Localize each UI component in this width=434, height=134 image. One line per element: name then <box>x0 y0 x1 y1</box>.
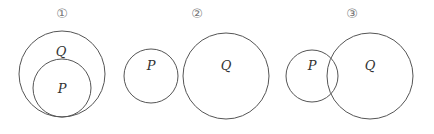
diagram-2: ② P Q <box>124 6 269 119</box>
set-p-label: P <box>307 58 317 73</box>
set-q-circle <box>327 33 413 119</box>
set-q-circle <box>183 33 269 119</box>
diagram-number-3: ③ <box>346 6 358 21</box>
diagram-3: ③ P Q <box>286 6 413 119</box>
diagram-number-2: ② <box>191 6 203 21</box>
venn-diagrams: ① Q P ② P Q ③ P Q <box>0 0 434 134</box>
set-q-label: Q <box>221 58 232 73</box>
diagram-number-1: ① <box>56 6 68 21</box>
set-p-label: P <box>146 58 156 73</box>
set-p-label: P <box>57 81 67 96</box>
set-q-label: Q <box>56 44 67 59</box>
diagram-1: ① Q P <box>19 6 105 117</box>
set-q-label: Q <box>365 58 376 73</box>
